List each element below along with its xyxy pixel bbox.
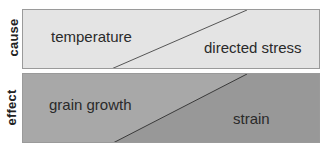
effect-box: grain growth strain — [22, 73, 320, 143]
cause-left-label: temperature — [51, 28, 132, 45]
row-label-effect: effect — [4, 90, 19, 126]
row-label-cause: cause — [6, 19, 21, 57]
effect-right-label: strain — [233, 110, 270, 127]
cause-box: temperature directed stress — [22, 9, 320, 69]
effect-left-label: grain growth — [49, 96, 132, 113]
cause-right-label: directed stress — [204, 39, 302, 56]
